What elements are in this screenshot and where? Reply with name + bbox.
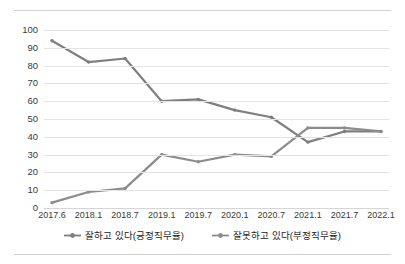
- legend-line-marker-icon: [64, 231, 81, 240]
- data-point: [233, 108, 236, 111]
- gridline-y-0: [44, 208, 389, 209]
- data-point: [379, 130, 382, 133]
- data-point: [50, 39, 53, 42]
- gridline-y-10: [44, 190, 389, 191]
- line-chart-figure: 0102030405060708090100 2017.62018.12018.…: [0, 0, 405, 264]
- series-line-2: [52, 128, 381, 203]
- gridline-y-80: [44, 66, 389, 67]
- y-tick-label-100: 100: [22, 25, 38, 35]
- x-tick-label-2022.1: 2022.1: [367, 211, 395, 220]
- gridline-y-30: [44, 155, 389, 156]
- gridline-y-100: [44, 30, 389, 31]
- y-tick-label-30: 30: [27, 150, 38, 160]
- y-tick-label-10: 10: [27, 185, 38, 195]
- gridline-y-20: [44, 172, 389, 173]
- plot-area: 0102030405060708090100: [44, 30, 389, 208]
- legend-line-marker-icon: [212, 231, 229, 240]
- gridline-y-50: [44, 119, 389, 120]
- legend-label: 잘하고 있다(긍정직무율): [85, 231, 184, 241]
- data-point: [306, 126, 309, 129]
- data-point: [50, 201, 53, 204]
- legend-label: 잘못하고 있다(부정직무율): [233, 231, 341, 241]
- chart-legend: 잘하고 있다(긍정직무율)잘못하고 있다(부정직무율): [0, 231, 405, 241]
- y-tick-label-20: 20: [27, 168, 38, 178]
- y-tick-label-50: 50: [27, 114, 38, 124]
- y-tick-label-0: 0: [33, 203, 38, 213]
- figure-top-rule: [14, 10, 391, 11]
- x-tick-label-2017.6: 2017.6: [38, 211, 66, 220]
- x-axis-tick-labels: 2017.62018.12018.72019.12019.72020.12020…: [44, 211, 389, 227]
- data-point: [306, 140, 309, 143]
- gridline-y-40: [44, 137, 389, 138]
- series-2: [50, 126, 382, 204]
- x-tick-label-2021.7: 2021.7: [331, 211, 359, 220]
- data-point: [197, 160, 200, 163]
- x-tick-label-2021.1: 2021.1: [294, 211, 322, 220]
- figure-bottom-rule: [14, 254, 391, 255]
- data-point: [123, 57, 126, 60]
- y-tick-label-70: 70: [27, 79, 38, 89]
- data-point: [343, 126, 346, 129]
- legend-entry-1[interactable]: 잘하고 있다(긍정직무율): [64, 231, 184, 241]
- gridline-y-90: [44, 48, 389, 49]
- y-tick-label-40: 40: [27, 132, 38, 142]
- y-tick-label-80: 80: [27, 61, 38, 71]
- x-tick-label-2018.1: 2018.1: [75, 211, 103, 220]
- x-tick-label-2018.7: 2018.7: [111, 211, 139, 220]
- x-tick-label-2020.7: 2020.7: [258, 211, 286, 220]
- x-tick-label-2019.7: 2019.7: [184, 211, 212, 220]
- x-tick-label-2019.1: 2019.1: [148, 211, 176, 220]
- x-tick-label-2020.1: 2020.1: [221, 211, 249, 220]
- data-point: [343, 130, 346, 133]
- gridline-y-70: [44, 83, 389, 84]
- gridline-y-60: [44, 101, 389, 102]
- y-tick-label-90: 90: [27, 43, 38, 53]
- legend-entry-2[interactable]: 잘못하고 있다(부정직무율): [212, 231, 341, 241]
- y-tick-label-60: 60: [27, 96, 38, 106]
- data-point: [87, 60, 90, 63]
